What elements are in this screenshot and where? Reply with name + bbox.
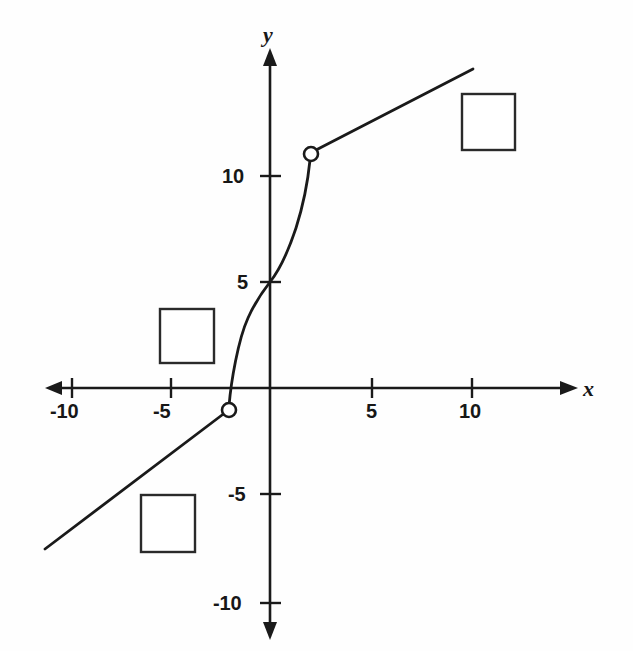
open-circle-lower-discontinuity	[222, 403, 236, 417]
y-axis-bottom-arrowhead	[263, 622, 277, 640]
graph-page: y x -10 -5 5 10 10 5 -5 -10	[0, 0, 633, 651]
coordinate-plane	[0, 0, 633, 651]
x-axis	[45, 378, 578, 398]
x-axis-label: x	[583, 376, 594, 402]
answer-box-top-right-hit[interactable]	[462, 94, 515, 150]
y-axis-label: y	[263, 22, 273, 48]
answer-box-middle-left-hit[interactable]	[160, 309, 214, 363]
y-tick-label--10: -10	[213, 592, 241, 615]
open-circle-upper-discontinuity	[304, 147, 318, 161]
y-tick-label--5: -5	[228, 483, 245, 506]
y-tick-label-5: 5	[237, 271, 248, 294]
x-axis-right-arrowhead	[560, 381, 578, 395]
y-tick-label-10: 10	[222, 165, 244, 188]
y-axis	[260, 48, 281, 640]
answer-box-bottom-left-hit[interactable]	[141, 495, 195, 552]
x-axis-left-arrowhead	[45, 381, 62, 395]
function-graph	[45, 69, 473, 549]
x-tick-label-5: 5	[366, 400, 377, 423]
y-axis-top-arrowhead	[263, 48, 277, 66]
x-tick-label-10: 10	[459, 400, 481, 423]
upper-right-ray-segment	[316, 69, 473, 150]
x-tick-label--5: -5	[153, 400, 170, 423]
left-ray-segment	[45, 412, 226, 549]
x-tick-label--10: -10	[50, 400, 78, 423]
